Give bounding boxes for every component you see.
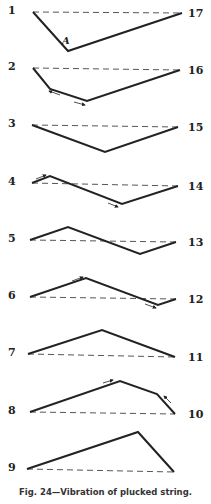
position-label-5: 5 xyxy=(8,233,16,244)
string-position-6 xyxy=(30,277,176,308)
position-label-7: 7 xyxy=(8,347,16,358)
string-position-1 xyxy=(33,12,182,51)
position-label-9: 9 xyxy=(8,462,16,473)
position-label-4: 4 xyxy=(8,176,16,187)
string-position-2 xyxy=(33,68,180,105)
rest-position-line xyxy=(33,12,182,13)
point-label-a: A xyxy=(62,36,70,46)
string-shape xyxy=(33,12,182,51)
rest-position-line xyxy=(28,354,175,357)
figure-caption: Fig. 24—Vibration of plucked string. xyxy=(0,487,211,497)
rest-position-line xyxy=(30,412,175,414)
motion-arrow-icon xyxy=(103,380,113,383)
position-label-14: 14 xyxy=(188,181,203,192)
string-shape xyxy=(33,68,180,101)
position-label-10: 10 xyxy=(188,409,203,420)
rest-position-line xyxy=(32,125,178,127)
motion-arrow-icon xyxy=(74,102,85,105)
position-label-3: 3 xyxy=(8,118,16,129)
string-shape xyxy=(30,381,175,414)
position-label-6: 6 xyxy=(8,290,16,301)
position-label-17: 17 xyxy=(188,8,203,19)
position-label-2: 2 xyxy=(8,61,16,72)
motion-arrow-icon xyxy=(108,203,118,207)
string-shape xyxy=(32,176,178,204)
position-label-8: 8 xyxy=(8,405,16,416)
position-label-11: 11 xyxy=(188,352,203,363)
position-label-16: 16 xyxy=(188,65,203,76)
position-label-13: 13 xyxy=(188,237,203,248)
string-shape xyxy=(32,125,178,152)
rest-position-line xyxy=(32,183,178,186)
plucked-string-diagram xyxy=(0,0,211,504)
rest-position-line xyxy=(30,297,176,299)
string-position-8 xyxy=(30,380,175,414)
position-label-1: 1 xyxy=(8,5,16,16)
string-shape xyxy=(27,432,174,472)
string-position-5 xyxy=(30,227,176,254)
string-shape xyxy=(30,278,176,305)
position-label-12: 12 xyxy=(188,294,203,305)
position-label-15: 15 xyxy=(188,122,203,133)
string-position-9 xyxy=(27,432,174,472)
string-position-4 xyxy=(32,175,178,207)
string-position-3 xyxy=(32,125,178,152)
string-shape xyxy=(28,330,175,357)
rest-position-line xyxy=(33,68,180,70)
string-position-7 xyxy=(28,330,175,357)
rest-position-line xyxy=(27,469,174,472)
